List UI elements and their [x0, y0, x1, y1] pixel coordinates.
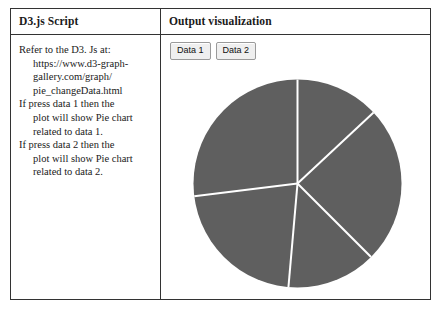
visualization-body: Data 1 Data 2	[161, 35, 430, 299]
script-line-2-cont-2: related to data 1.	[33, 125, 154, 139]
script-line-2-cont-1: plot will show Pie chart	[33, 111, 154, 125]
script-line-3: If press data 2 then the plot will show …	[19, 138, 154, 179]
header-cell-script: D3.js Script	[11, 9, 161, 34]
script-line-3-lead: If press data 2 then the	[19, 139, 114, 150]
column-header-script: D3.js Script	[11, 9, 160, 34]
script-line-1: Refer to the D3. Js at: https://www.d3-g…	[19, 43, 154, 97]
script-line-1-lead: Refer to the D3. Js at:	[19, 44, 111, 55]
visualization-cell: Data 1 Data 2	[161, 35, 430, 299]
script-text-block: Refer to the D3. Js at: https://www.d3-g…	[11, 35, 160, 185]
column-header-visualization: Output visualization	[161, 9, 430, 34]
table-header-row: D3.js Script Output visualization	[11, 9, 430, 35]
script-line-1-url-part-1: https://www.d3-graph-	[33, 57, 154, 71]
table-body-row: Refer to the D3. Js at: https://www.d3-g…	[11, 35, 430, 299]
script-line-3-cont-1: plot will show Pie chart	[33, 152, 154, 166]
header-cell-visualization: Output visualization	[161, 9, 430, 34]
script-line-1-url-part-3: pie_changeData.html	[33, 84, 154, 98]
comparison-table: D3.js Script Output visualization Refer …	[10, 8, 431, 300]
script-line-2: If press data 1 then the plot will show …	[19, 97, 154, 138]
script-line-1-url-part-2: gallery.com/graph/	[33, 70, 154, 84]
pie-chart-container	[161, 35, 431, 310]
pie-chart-svg	[161, 35, 431, 310]
script-line-2-lead: If press data 1 then the	[19, 98, 114, 109]
script-line-3-cont-2: related to data 2.	[33, 165, 154, 179]
script-cell: Refer to the D3. Js at: https://www.d3-g…	[11, 35, 161, 299]
